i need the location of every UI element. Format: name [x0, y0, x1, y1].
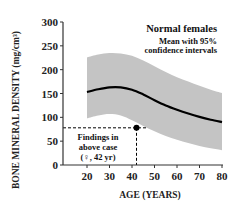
y-axis-title-text: BONE MINERAL DENSITY: [11, 70, 21, 189]
x-tick-label: 80: [217, 170, 229, 182]
x-tick-label: 50: [149, 170, 161, 182]
x-tick-label: 70: [194, 170, 206, 182]
legend-title: Normal females: [146, 23, 217, 34]
case-data-point: [134, 125, 140, 131]
x-tick-label: 30: [104, 170, 116, 182]
x-tick-label: 40: [127, 170, 139, 182]
legend-subtitle-line: confidence intervals: [145, 45, 218, 55]
case-annotation-line: above case: [79, 142, 118, 152]
x-axis-title: AGE (YEARS): [119, 190, 181, 201]
y-tick-label: 250: [42, 40, 59, 52]
y-tick-label: 100: [42, 111, 59, 123]
x-tick-label: 20: [82, 170, 94, 182]
case-annotation-line: (♀, 42 yr): [81, 152, 116, 162]
case-annotation-line: Findings in: [78, 132, 119, 142]
y-axis-unit: (mg/cm³): [11, 31, 22, 70]
y-tick-label: 150: [42, 88, 59, 100]
x-tick-label: 60: [172, 170, 184, 182]
y-tick-label: 200: [42, 64, 59, 76]
y-tick-label: 300: [42, 16, 59, 28]
y-tick-label: 0: [53, 159, 59, 171]
bone-density-chart: 05010015020025030020304050607080 AGE (YE…: [0, 0, 230, 210]
y-axis-title: BONE MINERAL DENSITY (mg/cm³): [11, 31, 22, 189]
y-tick-label: 50: [47, 135, 59, 147]
